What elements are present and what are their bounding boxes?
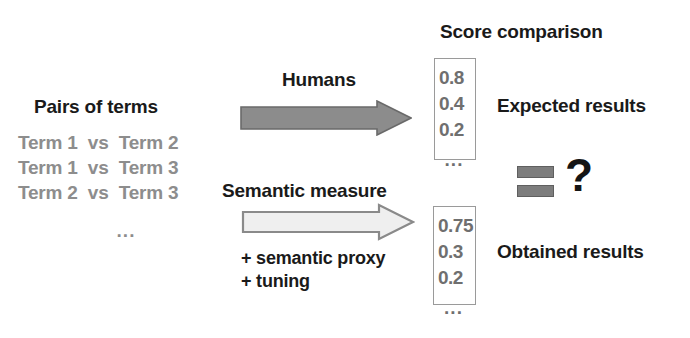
semantic-measure-notes: + semantic proxy + tuning bbox=[241, 247, 385, 293]
equals-bar-top bbox=[517, 166, 554, 178]
diagram-canvas: Pairs of terms Term 1 vs Term 2 Term 1 v… bbox=[0, 0, 690, 338]
score-value: 0.75 bbox=[438, 213, 475, 239]
equals-sign-icon bbox=[517, 166, 554, 197]
humans-flow-label: Humans bbox=[282, 69, 356, 91]
note-item: + semantic proxy bbox=[241, 247, 385, 270]
expected-scores-box: 0.8 0.4 0.2 ... bbox=[434, 58, 476, 160]
score-comparison-title: Score comparison bbox=[440, 21, 603, 43]
pairs-of-terms-title: Pairs of terms bbox=[34, 96, 158, 118]
list-item: Term 1 vs Term 3 bbox=[18, 155, 178, 180]
list-item: Term 1 vs Term 2 bbox=[18, 130, 178, 155]
score-ellipsis: ... bbox=[439, 147, 475, 173]
semantic-measure-flow-label: Semantic measure bbox=[222, 180, 387, 202]
right-arrow-outline-icon bbox=[241, 203, 415, 241]
pairs-of-terms-list: Term 1 vs Term 2 Term 1 vs Term 3 Term 2… bbox=[18, 130, 178, 205]
score-ellipsis: ... bbox=[438, 295, 475, 321]
obtained-results-label: Obtained results bbox=[497, 241, 644, 263]
expected-results-label: Expected results bbox=[497, 95, 646, 117]
note-item: + tuning bbox=[241, 270, 385, 293]
list-item: Term 2 vs Term 3 bbox=[18, 180, 178, 205]
score-value: 0.3 bbox=[438, 239, 475, 265]
obtained-scores-box: 0.75 0.3 0.2 ... bbox=[433, 206, 476, 305]
question-mark-symbol: ? bbox=[565, 152, 593, 198]
score-value: 0.8 bbox=[439, 65, 475, 91]
score-value: 0.2 bbox=[438, 265, 475, 291]
equals-bar-bottom bbox=[517, 185, 554, 197]
score-value: 0.2 bbox=[439, 117, 475, 143]
right-arrow-filled-icon bbox=[240, 100, 412, 136]
score-value: 0.4 bbox=[439, 91, 475, 117]
pairs-list-ellipsis: ... bbox=[96, 220, 156, 242]
